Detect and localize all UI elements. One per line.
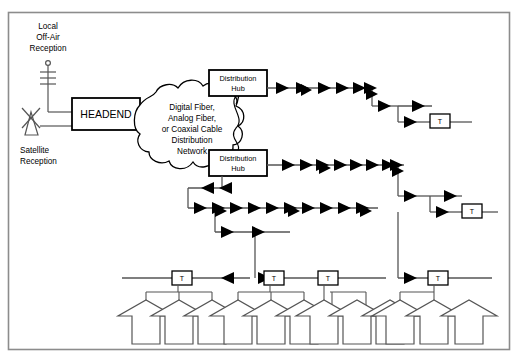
- tap-r1[interactable]: T: [430, 114, 450, 128]
- hub1-label-line-0: Distribution: [220, 74, 257, 83]
- hub2-label-line-0: Distribution: [220, 154, 257, 163]
- satellite-label-line-1: Reception: [20, 157, 57, 166]
- cloud-label-line-0: Digital Fiber,: [169, 103, 215, 112]
- hub1-label-line-1: Hub: [231, 84, 245, 93]
- hub2-label-line-1: Hub: [231, 164, 245, 173]
- offair-label-line-1: Off-Air: [36, 33, 60, 42]
- tap-h2[interactable]: T: [264, 271, 284, 285]
- cloud-label-line-3: Distribution: [172, 136, 213, 145]
- diagram-canvas: Local Off-Air Reception Satellite Recept…: [0, 0, 520, 360]
- satellite-label-line-0: Satellite: [20, 146, 50, 155]
- cloud-label-line-1: Analog Fiber,: [168, 114, 216, 123]
- tap-h1[interactable]: T: [172, 271, 192, 285]
- headend-label: HEADEND: [80, 108, 132, 120]
- house-row: [118, 300, 497, 344]
- tap-r2[interactable]: T: [462, 204, 482, 218]
- offair-label-line-0: Local: [38, 22, 58, 31]
- tap-h4[interactable]: T: [428, 271, 448, 285]
- tap-h2-label: T: [272, 275, 277, 282]
- tap-h3-label: T: [326, 275, 331, 282]
- tap-r2-label: T: [470, 208, 475, 215]
- tap-h4-label: T: [436, 275, 441, 282]
- tap-h3[interactable]: T: [318, 271, 338, 285]
- offair-label-line-2: Reception: [30, 44, 67, 53]
- cloud-label-line-4: Network: [177, 147, 208, 156]
- network-diagram-svg: Local Off-Air Reception Satellite Recept…: [0, 0, 520, 360]
- cloud-label-line-2: or Coaxial Cable: [162, 125, 223, 134]
- tap-r1-label: T: [438, 118, 443, 125]
- tap-h1-label: T: [180, 275, 185, 282]
